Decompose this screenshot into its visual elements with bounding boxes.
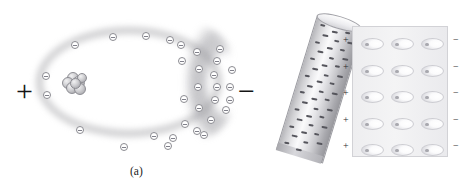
polarized-atom (361, 118, 384, 130)
physics-figure-polarization: + − (a) +++++−−−−− (b) (0, 0, 470, 187)
slab-negative-sign: − (453, 141, 459, 151)
rod-body (276, 15, 364, 163)
polarized-atom (361, 91, 384, 103)
electron-icon (195, 65, 203, 73)
electron-icon (216, 45, 224, 53)
polarized-atom (391, 38, 414, 50)
electron-icon (42, 72, 50, 80)
rod-cylinder (276, 10, 364, 163)
electron-icon (177, 41, 185, 49)
polarized-atom (391, 144, 414, 156)
electron-icon (210, 71, 218, 79)
polarized-atom (421, 144, 444, 156)
electron-icon (180, 95, 188, 103)
slab-positive-sign: + (343, 88, 349, 98)
negative-charge-mark (324, 74, 329, 76)
polarized-atom (361, 65, 384, 77)
electron-icon (142, 32, 150, 40)
panel-a-caption: (a) (130, 165, 143, 177)
nucleon (70, 78, 81, 89)
negative-charge-mark (340, 48, 345, 50)
electron-icon (195, 104, 203, 112)
electron-icon (150, 132, 158, 140)
slab-negative-sign: − (453, 35, 459, 45)
atom-nucleus (62, 71, 88, 95)
electron-icon (109, 33, 117, 41)
polarized-atom (421, 118, 444, 130)
electron-icon (207, 116, 215, 124)
electron-icon (211, 96, 219, 104)
polarized-atom (391, 118, 414, 130)
negative-charge-mark (315, 41, 320, 43)
slab-positive-sign: + (343, 35, 349, 45)
negative-sign-label: − (238, 76, 255, 106)
slab-positive-sign: + (343, 115, 349, 125)
slab-positive-sign: + (343, 62, 349, 72)
electron-icon (43, 91, 51, 99)
electron-icon (76, 126, 84, 134)
polarized-atom (421, 65, 444, 77)
polarized-atom (391, 65, 414, 77)
polarized-atom (361, 144, 384, 156)
electron-icon (181, 120, 189, 128)
electron-icon (166, 36, 174, 44)
electron-icon (226, 96, 234, 104)
slab-negative-sign: − (453, 62, 459, 72)
electron-icon (200, 131, 208, 139)
slab-positive-sign: + (343, 141, 349, 151)
charged-rod (261, 6, 345, 158)
electron-icon (213, 83, 221, 91)
electron-icon (164, 142, 172, 150)
negative-charge-mark (314, 107, 319, 109)
electron-icon (213, 57, 221, 65)
polarized-atom (421, 38, 444, 50)
negative-charge-mark (332, 92, 338, 95)
panel-b: +++++−−−−− (b) (255, 0, 470, 187)
negative-charge-mark (289, 125, 294, 127)
electron-icon (120, 143, 128, 151)
electron-icon (71, 41, 79, 49)
polarized-atom (391, 91, 414, 103)
negative-charge-mark (305, 74, 310, 76)
polarized-atom (361, 38, 384, 50)
electron-icon (222, 106, 230, 114)
panel-a: + − (a) (0, 0, 265, 187)
electron-icon (226, 83, 234, 91)
negative-charge-mark (307, 84, 313, 87)
dielectric-slab (352, 26, 448, 157)
electron-icon (193, 48, 201, 56)
negative-charge-mark (314, 132, 319, 134)
electron-icon (178, 57, 186, 65)
polarized-atom (421, 91, 444, 103)
slab-negative-sign: − (453, 115, 459, 125)
electron-icon (194, 83, 202, 91)
electron-icon (169, 134, 177, 142)
positive-sign-label: + (16, 76, 33, 106)
slab-negative-sign: − (453, 88, 459, 98)
electron-icon (228, 66, 236, 74)
negative-charge-mark (330, 82, 335, 84)
